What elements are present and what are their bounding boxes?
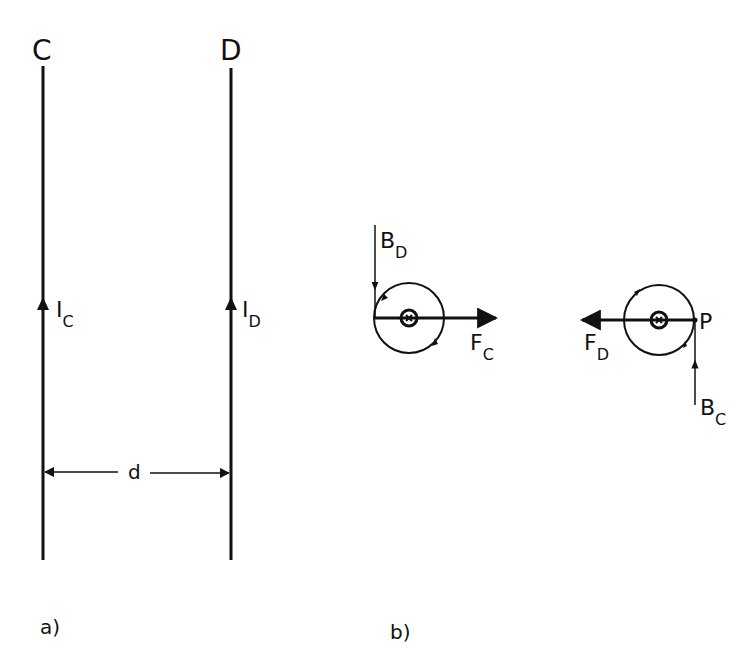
field-bc-label: BC <box>700 395 726 429</box>
diagram-canvas: C D IC ID d a) BD FC <box>0 0 745 671</box>
point-p-label: P <box>699 309 712 334</box>
separation-label: d <box>128 460 141 484</box>
force-fd-label: FD <box>584 330 609 364</box>
wire-c-label: C <box>32 34 52 67</box>
force-fc-label: FC <box>470 330 494 364</box>
panel-b-right: P FD BC <box>582 285 726 429</box>
panel-a: C D IC ID d a) <box>32 34 261 639</box>
panel-b-left: BD FC <box>374 225 496 364</box>
field-bd-label: BD <box>380 228 407 262</box>
wire-d-label: D <box>220 34 242 67</box>
current-d-label: ID <box>242 297 261 331</box>
point-p-dot <box>693 318 698 323</box>
current-arrow-d-icon <box>225 297 237 310</box>
panel-a-label: a) <box>40 615 60 639</box>
current-arrow-c-icon <box>37 297 49 310</box>
panel-b-label: b) <box>390 620 411 644</box>
current-c-label: IC <box>56 297 74 331</box>
